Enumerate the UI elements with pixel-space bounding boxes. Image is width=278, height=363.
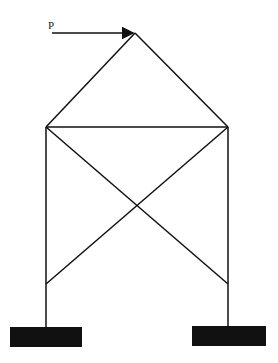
truss-members [46, 33, 228, 327]
right-fixed-support [192, 326, 266, 346]
left-fixed-support [10, 327, 82, 347]
right-roof-member [135, 33, 228, 127]
left-roof-member [46, 33, 135, 127]
load-label: P [48, 19, 54, 31]
truss-diagram: P [0, 0, 278, 363]
